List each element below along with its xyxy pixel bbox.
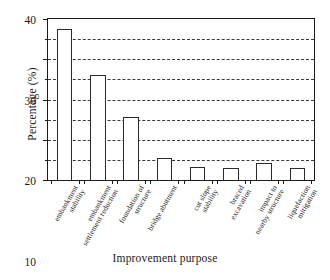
x-axis-tick bbox=[278, 180, 279, 184]
y-axis-minor-tick bbox=[45, 160, 48, 161]
y-axis-tick: 20 bbox=[43, 100, 48, 101]
x-axis-title: Improvement purpose bbox=[0, 252, 330, 264]
y-axis-tick: 0 bbox=[43, 180, 48, 181]
x-axis-tick bbox=[184, 180, 185, 184]
x-axis-category-label: bracedexcavation bbox=[222, 184, 254, 222]
x-axis-tick bbox=[178, 180, 179, 184]
x-axis-tick bbox=[150, 180, 151, 184]
y-axis-tick: 30 bbox=[43, 59, 48, 60]
y-axis-tick-label: 20 bbox=[25, 175, 37, 187]
axis-tick-layer: 010203040 bbox=[48, 19, 314, 180]
y-axis-tick-label: 30 bbox=[25, 95, 37, 107]
x-axis-tick bbox=[245, 180, 246, 184]
x-axis-tick bbox=[117, 180, 118, 184]
x-axis-tick bbox=[79, 180, 80, 184]
x-axis-tick bbox=[212, 180, 213, 184]
x-axis-category-label: liquefactionmitigation bbox=[287, 184, 320, 225]
x-axis-tick bbox=[84, 180, 85, 184]
x-axis-tick bbox=[283, 180, 284, 184]
y-axis-minor-tick bbox=[45, 39, 48, 40]
x-axis-tick bbox=[217, 180, 218, 184]
x-axis-category-label: embankmentstability bbox=[53, 184, 88, 227]
x-axis-tick bbox=[250, 180, 251, 184]
x-axis-tick bbox=[112, 180, 113, 184]
y-axis-minor-tick bbox=[45, 79, 48, 80]
x-axis-category-label: cut slopestability bbox=[192, 184, 221, 217]
y-axis-tick: 40 bbox=[43, 19, 48, 20]
y-axis-tick: 10 bbox=[43, 140, 48, 141]
y-axis-tick-label: 40 bbox=[25, 14, 37, 26]
x-axis-tick bbox=[311, 180, 312, 184]
bar-chart-figure: Percentage (%) 010203040 embankmentstabi… bbox=[0, 0, 330, 280]
x-axis-tick bbox=[145, 180, 146, 184]
y-axis-minor-tick bbox=[45, 120, 48, 121]
x-axis-tick bbox=[51, 180, 52, 184]
plot-area: 010203040 bbox=[47, 18, 315, 181]
